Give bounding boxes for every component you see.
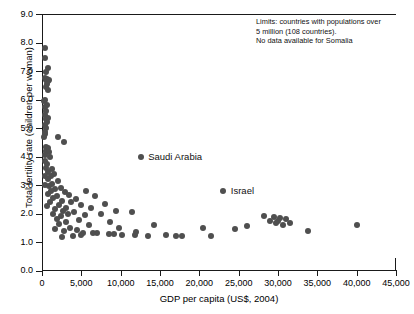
data-point (163, 232, 169, 238)
data-point (287, 220, 293, 226)
y-tick-label: 9.0 (20, 10, 33, 19)
data-point (92, 193, 98, 199)
x-tick-label: 15,000 (146, 279, 174, 288)
data-point (59, 234, 65, 240)
x-tick (121, 270, 122, 276)
data-point (107, 219, 113, 225)
y-tick-label: 0.0 (20, 266, 33, 275)
scatter-chart-figure: 0.01.02.03.04.05.06.07.08.09.0 05,00010,… (0, 0, 414, 314)
data-point (82, 212, 88, 218)
data-point (71, 209, 77, 215)
y-tick (36, 14, 42, 15)
x-tick (160, 270, 161, 276)
data-point (86, 222, 92, 228)
data-point (267, 218, 273, 224)
data-point (145, 233, 151, 239)
data-point (129, 209, 135, 215)
data-point (102, 201, 108, 207)
x-tick (278, 270, 279, 276)
data-point (56, 221, 62, 227)
data-point (63, 219, 69, 225)
data-point (151, 222, 157, 228)
israel-label: Israel (231, 186, 254, 196)
y-tick (36, 242, 42, 243)
y-axis-title: Total fertility rate (children per woman… (23, 28, 34, 228)
data-point (70, 233, 76, 239)
x-tick-label: 20,000 (186, 279, 214, 288)
y-tick (36, 157, 42, 158)
data-point (111, 231, 117, 237)
limits-note-line: Limits: countries with populations over (256, 17, 381, 27)
limits-note-line: No data available for Somalia (256, 36, 381, 46)
y-tick (36, 214, 42, 215)
x-tick (317, 270, 318, 276)
data-point (220, 188, 226, 194)
x-axis-line (42, 270, 396, 271)
y-tick-label: 1.0 (20, 238, 33, 247)
data-point (354, 222, 360, 228)
data-point (244, 223, 250, 229)
data-point (113, 208, 119, 214)
x-tick-label: 0 (39, 279, 44, 288)
x-tick (81, 270, 82, 276)
y-tick (36, 71, 42, 72)
data-point (200, 225, 206, 231)
data-point (67, 225, 73, 231)
data-point (68, 199, 74, 205)
x-tick-label: 45,000 (382, 279, 410, 288)
data-point (41, 134, 47, 140)
x-tick-label: 5,000 (70, 279, 93, 288)
data-point (65, 211, 71, 217)
x-tick (396, 270, 397, 276)
x-axis-title: GDP per capita (US$, 2004) (42, 293, 396, 304)
data-point (88, 205, 94, 211)
data-point (76, 217, 82, 223)
data-point (305, 228, 311, 234)
data-point (98, 211, 104, 217)
data-point (90, 230, 96, 236)
x-tick (42, 270, 43, 276)
data-point (44, 203, 50, 209)
data-point (179, 233, 185, 239)
data-point (78, 202, 84, 208)
y-tick (36, 43, 42, 44)
data-point (61, 139, 67, 145)
data-point (280, 222, 286, 228)
data-point (45, 87, 51, 93)
limits-note-line: 5 million (108 countries). (256, 27, 381, 37)
data-point (42, 55, 48, 61)
data-point (66, 192, 72, 198)
data-point (138, 154, 144, 160)
data-point (173, 233, 179, 239)
data-point (208, 233, 214, 239)
data-point (78, 232, 84, 238)
x-tick (199, 270, 200, 276)
data-point (42, 45, 48, 51)
data-point (47, 154, 53, 160)
saudi-arabia-label: Saudi Arabia (148, 152, 202, 162)
data-point (119, 232, 125, 238)
y-tick (36, 128, 42, 129)
y-tick (36, 185, 42, 186)
data-point (232, 226, 238, 232)
x-tick-label: 30,000 (264, 279, 292, 288)
data-point (83, 188, 89, 194)
x-tick-label: 35,000 (304, 279, 332, 288)
x-tick (357, 270, 358, 276)
limits-note-annotation: Limits: countries with populations over5… (256, 17, 381, 46)
data-point (116, 225, 122, 231)
data-point (273, 220, 279, 226)
data-point (132, 232, 138, 238)
x-tick-label: 40,000 (343, 279, 371, 288)
data-point (55, 134, 61, 140)
data-point (55, 178, 61, 184)
x-tick-label: 25,000 (225, 279, 253, 288)
x-tick-label: 10,000 (107, 279, 135, 288)
data-point (52, 226, 58, 232)
x-tick (239, 270, 240, 276)
data-point (261, 213, 267, 219)
